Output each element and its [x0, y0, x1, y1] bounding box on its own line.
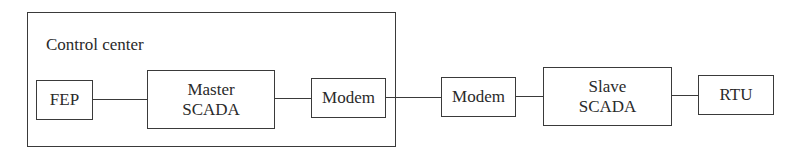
connector-modem-slave — [516, 96, 543, 97]
master-scada-node: Master SCADA — [147, 70, 275, 129]
modem-remote-node: Modem — [441, 77, 516, 117]
modem-remote-label: Modem — [452, 87, 505, 107]
connector-master-modem — [275, 98, 311, 99]
control-center-label: Control center — [46, 35, 144, 55]
fep-node: FEP — [36, 80, 93, 120]
modem-cc-label: Modem — [322, 88, 375, 108]
master-scada-line1: Master — [182, 80, 240, 100]
slave-scada-line1: Slave — [579, 77, 637, 97]
master-scada-line2: SCADA — [182, 100, 240, 120]
connector-fep-master — [93, 99, 147, 100]
slave-scada-line2: SCADA — [579, 97, 637, 117]
rtu-label: RTU — [720, 85, 753, 105]
rtu-node: RTU — [698, 75, 774, 115]
modem-control-center-node: Modem — [311, 78, 386, 118]
slave-scada-node: Slave SCADA — [543, 67, 672, 126]
connector-modem-modem — [386, 97, 441, 98]
connector-slave-rtu — [672, 95, 698, 96]
fep-label: FEP — [50, 90, 79, 110]
